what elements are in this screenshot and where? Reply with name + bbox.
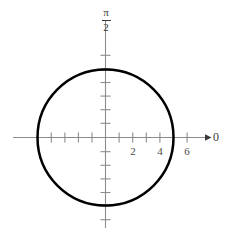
x-tick-label-2: 2 — [126, 146, 140, 157]
polar-circle-figure: 2 4 6 0 π 2 — [0, 0, 232, 235]
x-tick-label-6: 6 — [180, 146, 194, 157]
polar-plot-canvas — [0, 0, 232, 235]
x-tick-label-4: 4 — [153, 146, 167, 157]
polar-axis-label-pi-over-two: π 2 — [97, 7, 115, 33]
denominator-two: 2 — [97, 22, 115, 34]
polar-axis-label-zero: 0 — [213, 131, 219, 143]
pi-symbol: π — [97, 7, 115, 19]
